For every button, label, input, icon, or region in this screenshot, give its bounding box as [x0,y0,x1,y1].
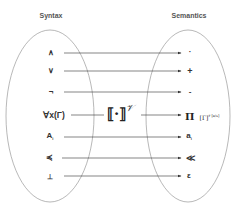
syntax-header: Syntax [40,12,63,19]
syntax-atom: Ai [47,132,54,141]
valuation-superscript: 𝒱 [126,103,133,113]
semantics-sum-symbol: + [187,67,192,76]
syntax-preceq-symbol: ≼ [46,154,53,162]
syntax-not-symbol: ¬ [49,88,54,96]
syntax-or-symbol: ∨ [48,67,54,75]
syntax-bottom-symbol: ⊥ [47,173,53,180]
syntax-atom-index: i [52,136,53,141]
semantic-mapping-operator: ⟦·⟧𝒱 [107,104,133,122]
semantics-minus-symbol: - [189,88,192,96]
semantics-epsilon-symbol: ε [187,172,191,180]
semantics-atom: ai [186,132,192,141]
semantics-big-product: Π [185,111,194,122]
syntax-and-symbol: ∧ [48,49,54,57]
semantics-product-symbol: · [189,48,192,56]
denotation-brackets: ⟦·⟧ [107,105,126,123]
syntax-semantics-diagram: Syntax Semantics ∧ ∨ ¬ ∀x(Γ) Ai ≼ ⊥ ⟦·⟧𝒱… [0,0,237,213]
syntax-forall-formula: ∀x(Γ) [43,111,65,120]
semantics-updated-valuation: 𝒱[a/x] [208,114,219,118]
semantics-header: Semantics [171,12,206,19]
semantics-forall-interpretation: Π [Γ]𝒱[a/x] [185,107,219,123]
semantics-atom-index: i [191,136,192,141]
semantics-way-below-symbol: ≪ [186,154,195,163]
